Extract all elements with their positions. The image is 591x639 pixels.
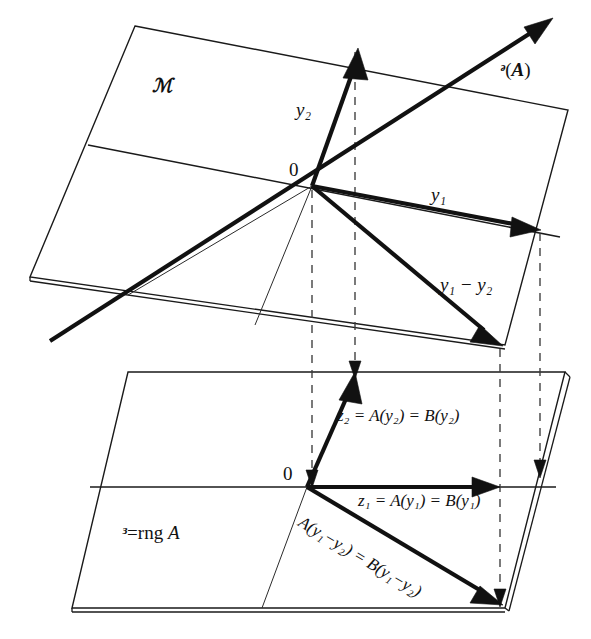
nullspace-label: ᵊ(A) <box>500 60 531 79</box>
lower-plane-rng: rng <box>138 522 163 543</box>
upper-origin-label: 0 <box>289 160 299 179</box>
lower-plane-operator: A <box>168 522 180 543</box>
upper-plane-label: ℳ <box>152 76 172 95</box>
nullspace-close-paren: ) <box>524 59 530 80</box>
vector-y2-arrowhead <box>343 48 368 80</box>
vector-z1-label: z₁ = A(y₁) = B(y₁) <box>358 492 481 509</box>
vector-z2-label: z₂ = A(y₂) = B(y₂) <box>337 407 460 424</box>
diagram-canvas <box>0 0 591 639</box>
lower-plane-slab-cap-corner <box>505 608 509 611</box>
lower-plane-slab-cap-right <box>565 372 570 377</box>
vector-nullspace-arrowhead <box>524 18 553 44</box>
lower-plane-label: ᵌ=rng A <box>122 523 180 542</box>
vector-y2-label: y₂ <box>296 100 311 119</box>
vector-y1-minus-y2-label: y₁ − y₂ <box>440 275 492 294</box>
vector-y1-label: y₁ <box>431 185 446 204</box>
nullspace-arg: A <box>512 59 525 80</box>
lower-plane-group <box>72 372 570 612</box>
lower-origin-label: 0 <box>283 464 293 483</box>
figure-root: ℳ ᵊ(A) y₂ y₁ y₁ − y₂ 0 0 z₂ = A(y₂) = B(… <box>0 0 591 639</box>
lower-plane-equals: = <box>127 522 138 543</box>
